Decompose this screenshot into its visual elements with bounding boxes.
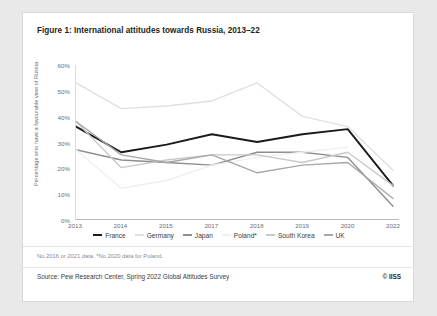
legend-swatch-icon xyxy=(266,234,275,236)
source-text: Source: Pew Research Center, Spring 2022… xyxy=(37,273,229,280)
legend-label: France xyxy=(105,232,126,239)
legend-label: Poland* xyxy=(234,232,257,239)
chart-plot-wrapper: Percentage who have a favourable view of… xyxy=(23,43,415,233)
legend-label: Germany xyxy=(147,232,174,239)
y-axis-tick-label: 10% xyxy=(58,191,70,198)
series-line xyxy=(76,127,393,186)
y-axis-tick-label: 40% xyxy=(58,113,70,120)
legend-item[interactable]: France xyxy=(93,232,126,239)
y-axis-tick-labels: 0%10%20%30%40%50%60% xyxy=(37,43,73,233)
legend-swatch-icon xyxy=(222,234,231,236)
legend-item[interactable]: Poland* xyxy=(222,232,257,239)
figure-footnote: No 2016 or 2021 data. *No 2020 data for … xyxy=(37,253,163,259)
legend-swatch-icon xyxy=(324,234,333,236)
legend-label: Japan xyxy=(195,232,213,239)
y-axis-tick-label: 30% xyxy=(58,139,70,146)
series-line xyxy=(76,150,393,206)
source-row: Source: Pew Research Center, Spring 2022… xyxy=(37,273,401,285)
line-chart-svg xyxy=(76,65,399,219)
legend-label: South Korea xyxy=(278,232,315,239)
legend-item[interactable]: Japan xyxy=(183,232,213,239)
y-axis-tick-label: 60% xyxy=(58,62,70,69)
legend-swatch-icon xyxy=(183,234,192,236)
figure-title: Figure 1: International attitudes toward… xyxy=(37,26,260,35)
plot-area xyxy=(75,65,399,220)
legend-label: UK xyxy=(336,232,345,239)
figure-card: Figure 1: International attitudes toward… xyxy=(22,12,414,302)
series-line xyxy=(76,121,393,185)
legend-swatch-icon xyxy=(135,234,144,236)
legend-item[interactable]: Germany xyxy=(135,232,174,239)
copyright-label: © IISS xyxy=(382,273,401,280)
source-divider xyxy=(23,267,415,268)
chart-legend: FranceGermanyJapanPoland*South KoreaUK xyxy=(37,228,401,242)
notes-divider xyxy=(23,246,415,247)
y-axis-tick-label: 20% xyxy=(58,165,70,172)
y-axis-tick-label: 50% xyxy=(58,87,70,94)
legend-item[interactable]: South Korea xyxy=(266,232,315,239)
legend-item[interactable]: UK xyxy=(324,232,345,239)
legend-swatch-icon xyxy=(93,234,102,236)
